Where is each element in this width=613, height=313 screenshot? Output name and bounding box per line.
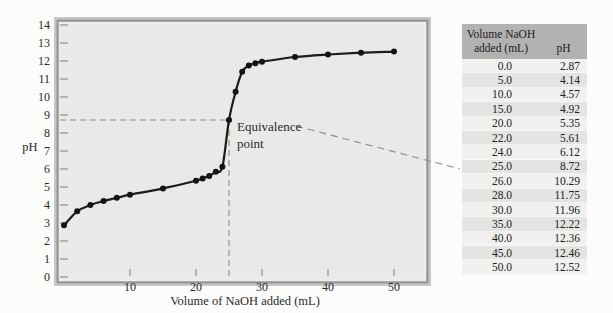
x-tick-label: 30 xyxy=(256,280,268,294)
volume-cell: 25.0 xyxy=(462,160,512,172)
volume-cell: 50.0 xyxy=(462,261,512,273)
x-tick-label: 40 xyxy=(322,280,334,294)
y-tick-label: 14 xyxy=(38,18,50,32)
data-point xyxy=(61,222,67,228)
table-row: 45.012.46 xyxy=(462,246,587,260)
volume-cell: 20.0 xyxy=(462,117,512,129)
volume-cell: 26.0 xyxy=(462,175,512,187)
y-tick-label: 13 xyxy=(38,36,50,50)
data-point xyxy=(259,59,265,65)
volume-cell: 24.0 xyxy=(462,146,512,158)
data-point xyxy=(200,175,206,181)
table-row: 24.06.12 xyxy=(462,145,587,159)
table-row: 30.011.96 xyxy=(462,203,587,217)
ph-cell: 12.46 xyxy=(512,247,587,259)
x-tick-label: 50 xyxy=(388,280,400,294)
table-row: 22.05.61 xyxy=(462,131,587,145)
y-tick-label: 5 xyxy=(44,180,50,194)
y-axis-title: pH xyxy=(22,140,37,154)
data-table: Volume NaOH added (mL) pH 0.02.875.04.14… xyxy=(462,24,587,275)
volume-cell: 45.0 xyxy=(462,247,512,259)
ph-cell: 12.22 xyxy=(512,218,587,230)
data-point xyxy=(206,173,212,179)
data-point xyxy=(160,185,166,191)
volume-cell: 28.0 xyxy=(462,189,512,201)
table-row: 28.011.75 xyxy=(462,189,587,203)
volume-cell: 22.0 xyxy=(462,132,512,144)
table-row: 0.02.87 xyxy=(462,59,587,73)
data-point xyxy=(219,164,225,170)
table-row: 10.04.57 xyxy=(462,88,587,102)
y-tick-label: 11 xyxy=(38,72,50,86)
y-tick-label: 6 xyxy=(44,162,50,176)
y-tick-label: 12 xyxy=(38,54,50,68)
data-point xyxy=(87,202,93,208)
ph-cell: 5.61 xyxy=(512,132,587,144)
volume-cell: 5.0 xyxy=(462,74,512,86)
data-point xyxy=(252,60,258,66)
equivalence-label-line1: Equivalence xyxy=(237,119,301,134)
table-header-ph: pH xyxy=(540,24,587,59)
ph-cell: 4.57 xyxy=(512,88,587,100)
data-point xyxy=(391,49,397,55)
data-point xyxy=(213,169,219,175)
volume-cell: 0.0 xyxy=(462,60,512,72)
titration-figure: 012345678910111213141020304050Volume of … xyxy=(0,0,613,313)
ph-cell: 6.12 xyxy=(512,146,587,158)
volume-cell: 30.0 xyxy=(462,204,512,216)
volume-cell: 10.0 xyxy=(462,88,512,100)
table-row: 25.08.72 xyxy=(462,160,587,174)
data-point xyxy=(233,89,239,95)
table-header-volume: Volume NaOH added (mL) xyxy=(462,24,540,59)
ph-cell: 8.72 xyxy=(512,160,587,172)
equivalence-label-line2: point xyxy=(237,136,264,151)
table-row: 15.04.92 xyxy=(462,102,587,116)
volume-cell: 35.0 xyxy=(462,218,512,230)
ph-cell: 5.35 xyxy=(512,117,587,129)
ph-cell: 2.87 xyxy=(512,60,587,72)
volume-cell: 40.0 xyxy=(462,232,512,244)
table-body: 0.02.875.04.1410.04.5715.04.9220.05.3522… xyxy=(462,59,587,275)
table-row: 20.05.35 xyxy=(462,117,587,131)
volume-cell: 15.0 xyxy=(462,103,512,115)
y-tick-label: 4 xyxy=(44,198,50,212)
table-row: 5.04.14 xyxy=(462,73,587,87)
table-row: 50.012.52 xyxy=(462,260,587,274)
ph-cell: 10.29 xyxy=(512,175,587,187)
y-tick-label: 0 xyxy=(44,270,50,284)
y-tick-label: 2 xyxy=(44,234,50,248)
ph-cell: 4.92 xyxy=(512,103,587,115)
data-point xyxy=(246,63,252,69)
x-tick-label: 10 xyxy=(124,280,136,294)
table-row: 35.012.22 xyxy=(462,217,587,231)
ph-cell: 12.36 xyxy=(512,232,587,244)
y-tick-label: 9 xyxy=(44,108,50,122)
data-point xyxy=(127,192,133,198)
ph-cell: 11.75 xyxy=(512,189,587,201)
table-header-row: Volume NaOH added (mL) pH xyxy=(462,24,587,59)
data-point xyxy=(292,54,298,60)
y-tick-label: 1 xyxy=(44,252,50,266)
data-point xyxy=(358,50,364,56)
x-tick-label: 20 xyxy=(190,280,202,294)
plot-area xyxy=(58,21,428,283)
y-tick-label: 3 xyxy=(44,216,50,230)
x-axis-title: Volume of NaOH added (mL) xyxy=(170,294,320,308)
y-tick-label: 7 xyxy=(44,144,50,158)
y-tick-label: 8 xyxy=(44,126,50,140)
data-point xyxy=(239,69,245,75)
data-point xyxy=(325,52,331,58)
table-row: 40.012.36 xyxy=(462,232,587,246)
data-point xyxy=(226,117,232,123)
data-point xyxy=(74,208,80,214)
ph-cell: 4.14 xyxy=(512,74,587,86)
data-point xyxy=(101,198,107,204)
table-row: 26.010.29 xyxy=(462,174,587,188)
ph-cell: 12.52 xyxy=(512,261,587,273)
y-tick-label: 10 xyxy=(38,90,50,104)
data-point xyxy=(193,178,199,184)
data-point xyxy=(114,195,120,201)
ph-cell: 11.96 xyxy=(512,204,587,216)
